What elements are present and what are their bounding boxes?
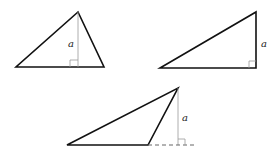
altitude-label: a	[68, 38, 74, 49]
obtuse-triangle: a	[67, 88, 196, 145]
triangle-outline	[160, 12, 256, 68]
acute-triangle: a	[16, 12, 104, 67]
altitude-label: a	[182, 112, 188, 123]
triangle-outline	[67, 88, 178, 145]
triangle-altitudes-diagram: a a a	[0, 0, 276, 156]
altitude-label: a	[261, 38, 267, 49]
right-angle-marker	[70, 60, 78, 67]
right-angle-marker	[249, 61, 256, 68]
right-triangle: a	[160, 12, 267, 68]
right-angle-marker	[178, 139, 185, 145]
triangle-outline	[16, 12, 104, 67]
